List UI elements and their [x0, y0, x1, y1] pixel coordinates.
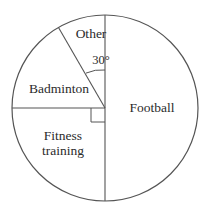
slice-label-football: Football [129, 100, 174, 115]
slice-label-fitness-line1: Fitness [44, 128, 82, 143]
angle-label-30-degrees: 30° [92, 53, 110, 67]
slice-label-fitness-line2: training [42, 143, 84, 158]
slice-label-other: Other [76, 26, 107, 41]
slice-label-badminton: Badminton [29, 81, 89, 96]
pie-chart-figure: Football Other Badminton Fitness trainin… [0, 0, 205, 218]
pie-chart-canvas: Football Other Badminton Fitness trainin… [0, 0, 205, 218]
